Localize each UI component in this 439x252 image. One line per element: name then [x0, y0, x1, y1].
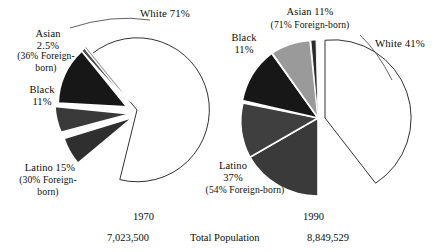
label-1990-white: White 41%	[375, 38, 425, 50]
total-population-caption: Total Population	[190, 232, 260, 243]
label-1990-asian: Asian 11%	[250, 6, 370, 18]
population-1970: 7,023,500	[107, 232, 149, 243]
label-1990-asian-foreign-born: (71% Foreign-born)	[246, 19, 374, 31]
label-1970-black: Black 11%	[12, 84, 72, 107]
slice-1970-white[interactable]	[92, 38, 210, 182]
leader-1970-white	[70, 18, 150, 28]
label-1970-latino-foreign-born: (30% Foreign- born)	[0, 174, 96, 197]
label-1970-asian-foreign-born: (36% Foreign- born)	[0, 50, 92, 73]
label-1970-white: White 71%	[140, 8, 190, 20]
year-1970: 1970	[133, 211, 154, 222]
label-1990-black: Black 11%	[215, 32, 273, 55]
slice-1990-white[interactable]	[325, 40, 411, 183]
year-1990: 1990	[303, 211, 324, 222]
label-1970-latino: Latino 15%	[4, 162, 96, 174]
figure-canvas: White 71% Asian 2.5% (36% Foreign- born)…	[0, 0, 439, 252]
population-1990: 8,849,529	[307, 232, 349, 243]
label-1990-latino: Latino 37%	[196, 160, 270, 183]
label-1990-latino-foreign-born: (54% Foreign-born)	[178, 184, 312, 196]
label-1970-asian: Asian 2.5%	[8, 28, 88, 51]
